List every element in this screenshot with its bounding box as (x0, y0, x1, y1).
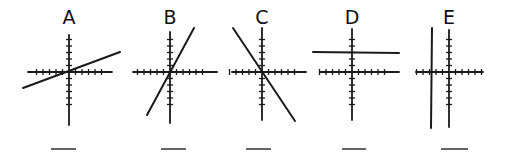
graph-label-d: D (345, 6, 360, 28)
graph-line-a (23, 52, 120, 88)
graph-label-c: C (255, 6, 268, 28)
graph-e: E (416, 6, 483, 149)
graph-c: C (230, 6, 307, 149)
graph-label-b: B (163, 6, 176, 28)
graph-a: A (23, 6, 120, 149)
graph-label-e: E (443, 6, 455, 28)
graph-line-e (431, 28, 432, 128)
graph-label-a: A (63, 6, 76, 28)
graph-d: D (313, 6, 399, 149)
graph-line-d (313, 52, 399, 53)
graph-b: B (133, 6, 217, 149)
graphs-worksheet: A B C D E (0, 0, 509, 162)
